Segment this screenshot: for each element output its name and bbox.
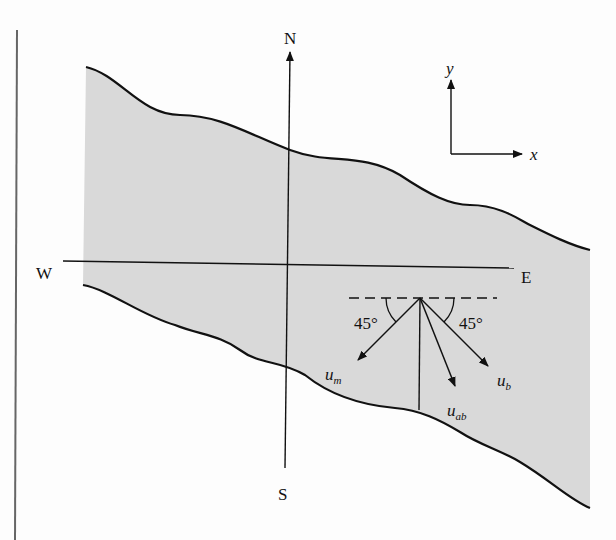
page-margin-line — [15, 30, 17, 540]
right-angle-label: 45° — [459, 314, 483, 333]
river-crossing-diagram: N S W E y x 45° 45° um uab ub — [0, 0, 616, 540]
north-label: N — [284, 29, 296, 48]
vertical-reference-line — [419, 298, 420, 410]
x-axis-label: x — [529, 145, 538, 164]
west-label: W — [36, 264, 53, 283]
east-label: E — [521, 268, 531, 287]
y-axis-label: y — [444, 59, 454, 78]
river-band — [83, 67, 590, 508]
left-angle-label: 45° — [354, 314, 378, 333]
south-label: S — [278, 485, 287, 504]
